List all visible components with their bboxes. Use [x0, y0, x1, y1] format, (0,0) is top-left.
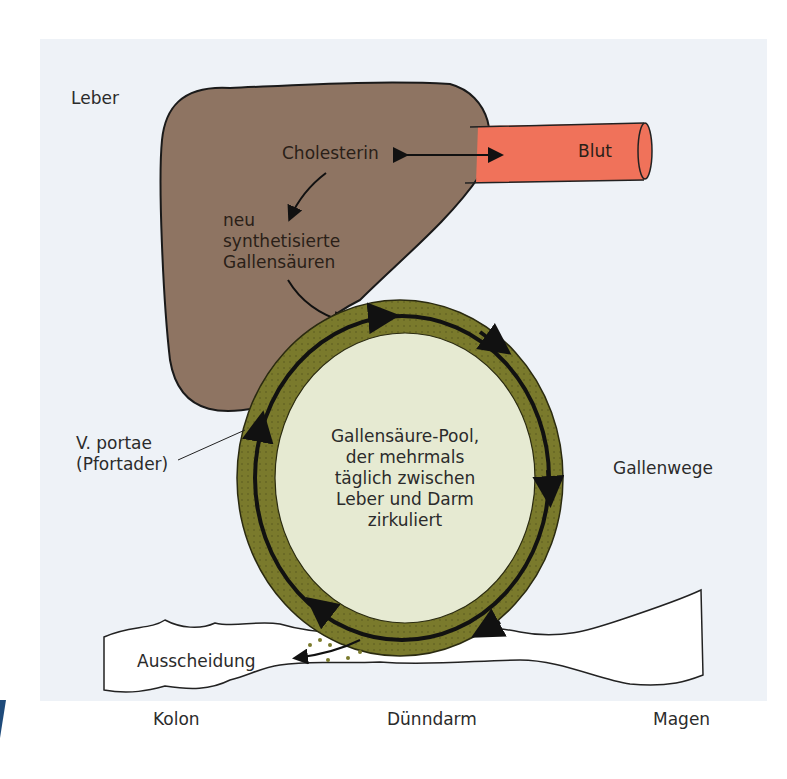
enterohepatic-circulation-diagram — [0, 0, 787, 779]
label-small-intestine: Dünndarm — [387, 709, 477, 730]
label-new-bile-acids: neu synthetisierte Gallensäuren — [223, 210, 340, 273]
label-liver: Leber — [71, 88, 119, 109]
label-portal-vein: V. portae (Pfortader) — [76, 433, 168, 475]
portal-vein-pointer — [178, 430, 245, 460]
label-blood: Blut — [578, 141, 612, 162]
label-excretion: Ausscheidung — [137, 651, 256, 672]
label-bile-acid-pool: Gallensäure-Pool, der mehrmals täglich z… — [320, 426, 490, 531]
page-accent-mark — [0, 700, 6, 738]
blood-vessel — [476, 123, 650, 183]
label-cholesterol: Cholesterin — [282, 143, 379, 164]
label-colon: Kolon — [153, 709, 200, 730]
label-stomach: Magen — [653, 709, 710, 730]
label-bile-ducts: Gallenwege — [613, 458, 713, 479]
